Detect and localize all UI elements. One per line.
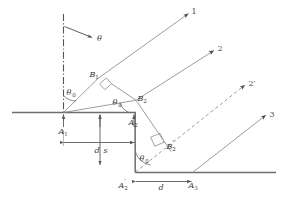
theta-indicator-arrow: [65, 27, 93, 38]
angle-label-theta0-A2-prime: θ: [140, 154, 145, 163]
angle-label-theta0-B2: θ: [113, 98, 118, 107]
ray-label-1: 1: [192, 7, 197, 16]
ray-label-3: 3: [270, 110, 275, 119]
point-label-A3-sub: 3: [194, 185, 198, 191]
point-label-A1-sub: 1: [64, 131, 68, 137]
ray-2-prime-line: [136, 85, 246, 172]
point-label-A2-sub: 2: [134, 122, 138, 128]
angle-label-theta0-A2-prime-sub: 0: [145, 158, 149, 164]
right-angle-marker-B2-prime: [151, 133, 165, 146]
point-label-B1-sub: 1: [95, 74, 99, 80]
angle-label-theta0-A1: θ: [67, 88, 72, 97]
figure-root: θ: [0, 0, 283, 208]
angle-label-theta0-A1-sub: 0: [72, 92, 76, 98]
ray-1-line: [97, 14, 189, 80]
right-angle-marker-B1: [100, 78, 112, 90]
ray-3-line: [193, 115, 267, 173]
theta-label: θ: [97, 34, 102, 43]
dimension-label-d-upper: d: [95, 146, 100, 155]
dimension-label-d-lower: d: [159, 183, 164, 192]
ray-geometry-diagram: θ: [0, 0, 283, 208]
angle-label-theta0-B2-sub: 0: [118, 102, 122, 108]
ray-label-2-prime: 2′: [249, 79, 256, 88]
ray-label-2: 2: [218, 44, 223, 53]
point-label-B2-sub: 2: [143, 98, 147, 104]
dimension-label-s: s: [104, 146, 108, 155]
ray-2-line: [136, 51, 214, 101]
